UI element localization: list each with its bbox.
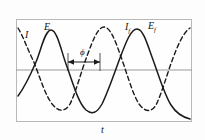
curve-label-voltage-final: Ef xyxy=(148,21,156,34)
curve-label-current-initial: I xyxy=(25,30,28,40)
phase-angle-label: ϕ xyxy=(80,48,85,57)
curve-label-voltage-initial: E xyxy=(44,22,50,32)
curve-label-current-final-subscript: f xyxy=(128,27,130,34)
phase-arrowhead-left-icon xyxy=(68,59,74,65)
voltage-curve-solid xyxy=(18,29,190,119)
phase-arrowhead-right-icon xyxy=(94,59,100,65)
phase-angle-waveform-figure: I E If Ef ϕ t xyxy=(0,0,205,140)
curve-label-voltage-final-subscript: f xyxy=(154,26,156,33)
x-axis-label: t xyxy=(101,125,104,135)
curve-label-current-final: If xyxy=(125,22,130,35)
waveform-canvas xyxy=(0,0,205,140)
